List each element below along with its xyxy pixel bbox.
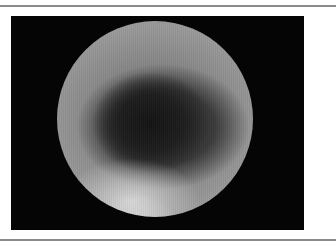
top-rule (0, 5, 336, 7)
endoscopy-image-frame (11, 16, 304, 230)
endoscopic-field-of-view (57, 21, 253, 217)
bottom-rule (0, 239, 336, 241)
